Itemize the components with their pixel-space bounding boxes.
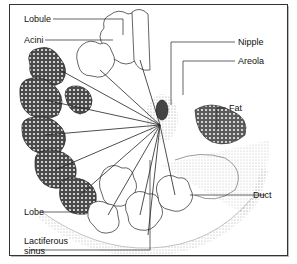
label-areola: Areola <box>238 56 264 66</box>
nipple <box>156 100 168 120</box>
label-lobule: Lobule <box>24 14 51 24</box>
label-fat: Fat <box>229 103 242 113</box>
label-lactiferous: Lactiferous <box>24 236 68 246</box>
label-sinus: sinus <box>24 246 45 256</box>
label-acini: Acini <box>24 35 44 45</box>
label-duct: Duct <box>253 190 272 200</box>
label-nipple: Nipple <box>238 37 264 47</box>
label-lobe: Lobe <box>24 207 44 217</box>
